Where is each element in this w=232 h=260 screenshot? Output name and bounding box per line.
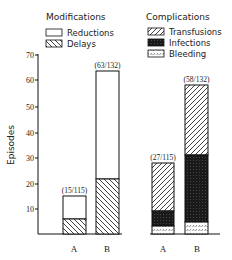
y-tick-label: 50: [26, 103, 34, 112]
y-tick-label: 60: [26, 76, 34, 85]
legend-complications: Complications Transfusions Infections Bl…: [146, 12, 222, 59]
segment-transfusions: [185, 85, 208, 155]
bar-annotation: (63/132): [95, 61, 121, 70]
legend-label-infections: Infections: [169, 38, 211, 48]
legend-swatch-infections: [148, 39, 164, 46]
segment-bleeding: [185, 222, 208, 234]
bar-annotation: (58/132): [184, 75, 210, 84]
segment-infections: [152, 211, 174, 226]
legend-title-modifications: Modifications: [46, 12, 106, 22]
x-category-label: A: [160, 244, 167, 254]
x-category-label: A: [71, 244, 78, 254]
legend-swatch-reductions: [46, 29, 62, 36]
legend-modifications: Modifications Reductions Delays: [46, 12, 114, 49]
legend-label-transfusions: Transfusions: [168, 27, 222, 37]
x-category-label: B: [194, 244, 200, 254]
segment-transfusions: [152, 163, 174, 211]
segment-delays: [96, 179, 119, 234]
y-axis-label: Episodes: [6, 125, 16, 165]
segment-infections: [185, 155, 208, 222]
chart: Modifications Reductions Delays Complica…: [0, 0, 232, 260]
legend-label-bleeding: Bleeding: [169, 49, 206, 59]
legend-swatch-delays: [46, 40, 62, 47]
legend-label-reductions: Reductions: [67, 28, 114, 38]
y-tick-label: 70: [26, 51, 34, 60]
bar-annotation: (27/115): [150, 153, 176, 162]
bar-complications-a: (27/115): [150, 153, 176, 234]
y-tick-label: 30: [26, 154, 34, 163]
legend-title-complications: Complications: [146, 12, 210, 22]
legend-swatch-transfusions: [148, 28, 164, 35]
segment-reductions: [63, 196, 86, 219]
bar-modifications-b: (63/132): [95, 61, 121, 234]
legend-label-delays: Delays: [67, 39, 96, 49]
bar-modifications-a: (15/115): [62, 186, 88, 234]
y-tick-label: 20: [26, 180, 34, 189]
x-category-label: B: [104, 244, 110, 254]
y-tick-label: 40: [26, 129, 34, 138]
segment-delays: [63, 219, 86, 234]
segment-bleeding: [152, 226, 174, 234]
bar-complications-b: (58/132): [184, 75, 210, 234]
bar-annotation: (15/115): [62, 186, 88, 195]
legend-swatch-bleeding: [148, 50, 164, 57]
y-tick-label: 10: [26, 205, 34, 214]
y-axis: 10 20 30 40 50 60 70 Episodes: [6, 51, 38, 234]
segment-reductions: [96, 71, 119, 179]
